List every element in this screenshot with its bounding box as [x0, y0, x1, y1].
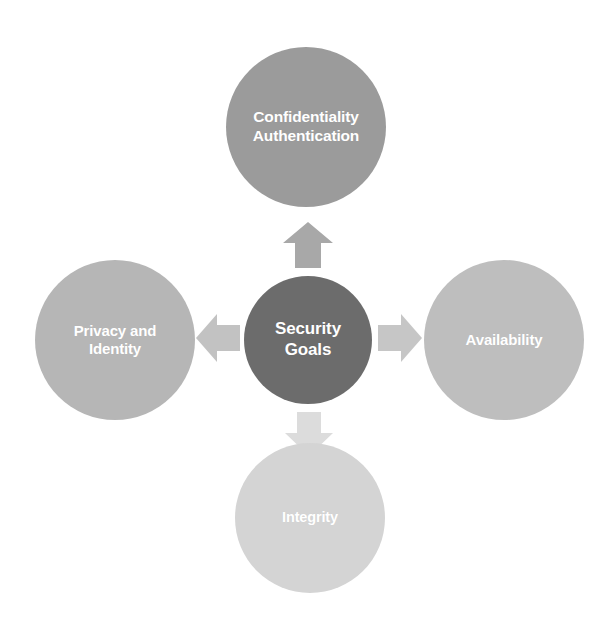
arrow-up-icon	[283, 222, 333, 268]
node-confidentiality-authentication[interactable]: Confidentiality Authentication	[226, 47, 386, 207]
node-confidentiality-authentication-label-line2: Authentication	[253, 127, 359, 146]
node-privacy-identity-label-line1: Privacy and	[74, 322, 157, 340]
node-security-goals-label-line2: Goals	[285, 340, 332, 361]
node-security-goals-label-line1: Security	[275, 319, 341, 340]
node-integrity[interactable]: Integrity	[235, 443, 385, 593]
node-integrity-label-line1: Integrity	[282, 509, 338, 527]
node-availability[interactable]: Availability	[424, 260, 584, 420]
node-security-goals-center[interactable]: Security Goals	[244, 276, 372, 404]
node-privacy-identity-label-line2: Identity	[89, 340, 141, 358]
node-confidentiality-authentication-label-line1: Confidentiality	[253, 108, 358, 127]
arrow-right-icon	[378, 314, 422, 362]
security-goals-diagram: Confidentiality Authentication Privacy a…	[0, 0, 614, 643]
node-availability-label-line1: Availability	[466, 331, 543, 349]
node-privacy-identity[interactable]: Privacy and Identity	[35, 260, 195, 420]
arrow-left-icon	[196, 314, 240, 362]
